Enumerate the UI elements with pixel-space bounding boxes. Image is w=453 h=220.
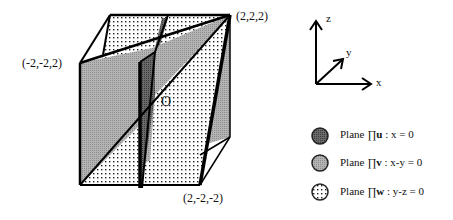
legend-equation: : y-z = 0 [384, 185, 424, 197]
legend-item-plane-u: Plane ∏u : x = 0 [310, 128, 414, 140]
vertex-label-top-left: (-2,-2,2) [22, 56, 62, 71]
vertex-label-top-right: (2,2,2) [236, 9, 268, 24]
z-axis-label: z [326, 12, 331, 24]
origin-label: O [161, 94, 171, 110]
x-axis-label: x [376, 76, 382, 88]
legend-item-plane-w: Plane ∏w : y-z = 0 [310, 185, 424, 197]
legend-prefix: Plane ∏ [340, 128, 376, 140]
legend-equation: : x = 0 [382, 128, 413, 140]
y-axis [316, 60, 342, 84]
legend-prefix: Plane ∏ [340, 156, 376, 168]
legend-equation: : x-y = 0 [382, 156, 422, 168]
axis-triad [310, 21, 371, 90]
legend-plane-symbol: w [376, 185, 384, 197]
y-axis-label: y [346, 46, 352, 58]
legend-item-plane-v: Plane ∏v : x-y = 0 [310, 156, 422, 168]
legend-prefix: Plane ∏ [340, 185, 376, 197]
vertex-label-bottom-right: (2,-2,-2) [183, 191, 223, 206]
